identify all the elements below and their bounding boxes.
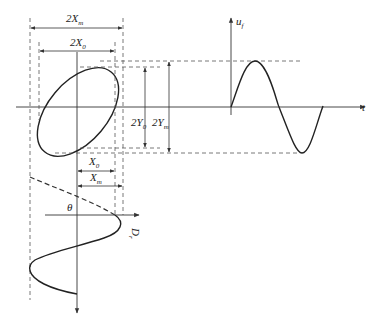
- position-curve: [30, 215, 121, 294]
- label-2ym: 2Ym: [152, 116, 169, 131]
- label-2y0: 2Y0: [131, 116, 147, 131]
- label-theta: θ: [67, 201, 73, 213]
- label-x0: X0: [88, 155, 100, 170]
- label-uf: uf: [236, 15, 245, 30]
- label-2xm: 2Xm: [66, 12, 83, 27]
- label-xm: Xm: [89, 171, 102, 186]
- label-t: t: [362, 101, 366, 113]
- label-dr: Dr: [127, 227, 142, 239]
- label-2x0: 2X0: [70, 36, 86, 51]
- position-curve-dashed: [30, 177, 115, 215]
- lissajous-diagram: 2Xm 2X0 2Y0 2Ym uf t X0 Xm θ Dr: [0, 0, 376, 329]
